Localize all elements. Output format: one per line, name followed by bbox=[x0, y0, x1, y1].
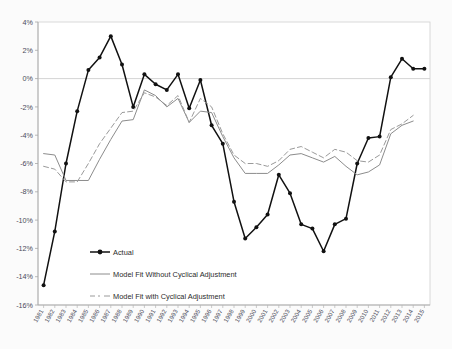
data-point-marker bbox=[64, 162, 68, 166]
data-point-marker bbox=[277, 173, 281, 177]
y-tick-label: -12% bbox=[16, 244, 33, 253]
data-point-marker bbox=[198, 78, 202, 82]
legend-swatch-marker bbox=[98, 250, 103, 255]
data-point-marker bbox=[243, 237, 247, 241]
data-point-marker bbox=[322, 249, 326, 253]
data-point-marker bbox=[176, 72, 180, 76]
data-point-marker bbox=[422, 67, 426, 71]
data-point-marker bbox=[109, 34, 113, 38]
data-point-marker bbox=[232, 200, 236, 204]
y-tick-label: -10% bbox=[16, 216, 33, 225]
data-point-marker bbox=[266, 212, 270, 216]
data-point-marker bbox=[42, 283, 46, 287]
data-point-marker bbox=[98, 55, 102, 59]
data-point-marker bbox=[142, 72, 146, 76]
y-tick-label: -8% bbox=[20, 187, 33, 196]
y-tick-label: 4% bbox=[23, 18, 34, 27]
legend-item-label: Model Fit with Cyclical Adjustment bbox=[113, 292, 225, 301]
data-point-marker bbox=[366, 136, 370, 140]
data-point-marker bbox=[344, 217, 348, 221]
data-point-marker bbox=[86, 68, 90, 72]
data-point-marker bbox=[120, 62, 124, 66]
data-point-marker bbox=[165, 88, 169, 92]
y-tick-label: -4% bbox=[20, 131, 33, 140]
data-point-marker bbox=[288, 191, 292, 195]
data-point-marker bbox=[299, 222, 303, 226]
data-point-marker bbox=[75, 109, 79, 113]
data-point-marker bbox=[378, 135, 382, 139]
y-tick-label: -2% bbox=[20, 103, 33, 112]
data-point-marker bbox=[411, 67, 415, 71]
data-point-marker bbox=[389, 75, 393, 79]
y-tick-label: 2% bbox=[23, 46, 34, 55]
y-tick-label: -14% bbox=[16, 272, 33, 281]
data-point-marker bbox=[254, 225, 258, 229]
data-point-marker bbox=[333, 222, 337, 226]
data-point-marker bbox=[154, 82, 158, 86]
data-point-marker bbox=[187, 106, 191, 110]
y-tick-label: 0% bbox=[23, 74, 34, 83]
data-point-marker bbox=[310, 227, 314, 231]
data-point-marker bbox=[400, 57, 404, 61]
legend-item-label: Model Fit Without Cyclical Adjustment bbox=[113, 270, 237, 279]
data-point-marker bbox=[221, 142, 225, 146]
data-point-marker bbox=[53, 229, 57, 233]
legend-item-label: Actual bbox=[113, 248, 134, 257]
y-tick-label: -6% bbox=[20, 159, 33, 168]
line-chart: 4%2%0%-2%-4%-6%-8%-10%-12%-14%-16% 19811… bbox=[0, 0, 452, 349]
chart-container: 4%2%0%-2%-4%-6%-8%-10%-12%-14%-16% 19811… bbox=[0, 0, 452, 349]
data-point-marker bbox=[355, 162, 359, 166]
y-tick-label: -16% bbox=[16, 301, 33, 310]
data-point-marker bbox=[210, 123, 214, 127]
